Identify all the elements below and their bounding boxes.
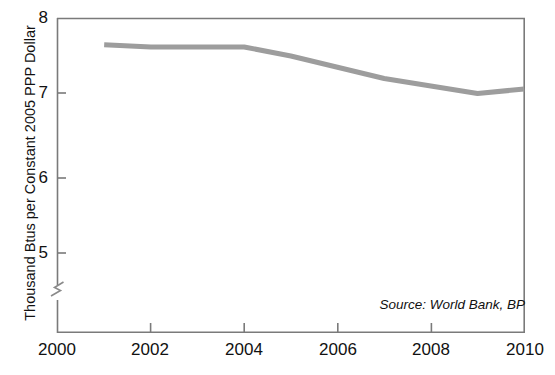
data-line-series-0	[104, 45, 524, 94]
chart-container: Thousand Btus per Constant 2005 PPP Doll…	[0, 0, 555, 375]
y-axis-ticks	[58, 93, 67, 253]
source-note: Source: World Bank, BP	[379, 297, 525, 312]
axis-frame	[57, 18, 525, 333]
plot-area	[0, 0, 555, 375]
x-axis-ticks	[151, 323, 432, 332]
